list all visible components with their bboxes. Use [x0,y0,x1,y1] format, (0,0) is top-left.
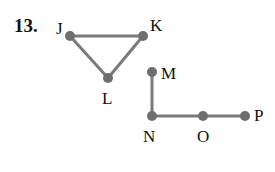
vertex-O [198,111,208,121]
graph-drawing [0,0,275,172]
vertex-label-O: O [197,128,209,145]
vertex-K [138,31,148,41]
vertex-label-J: J [56,20,63,37]
vertex-label-P: P [254,107,263,124]
vertex-M [147,67,157,77]
edge-KL [108,36,143,78]
vertex-label-L: L [102,90,112,107]
vertex-N [147,111,157,121]
vertex-label-K: K [150,17,162,34]
vertex-L [103,73,113,83]
vertex-label-M: M [161,65,176,82]
vertex-P [240,111,250,121]
vertex-label-N: N [143,128,155,145]
edge-JL [70,36,108,78]
vertex-J [65,31,75,41]
graph-figure: 13. JKLMNOP [0,0,275,172]
